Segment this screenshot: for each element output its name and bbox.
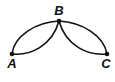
node-c-label: C bbox=[101, 56, 111, 71]
node-b-label: B bbox=[54, 3, 63, 18]
diagram-canvas: A B C bbox=[0, 0, 115, 82]
node-b-dot bbox=[57, 19, 62, 24]
graph-diagram: A B C bbox=[0, 0, 115, 82]
node-a-label: A bbox=[6, 56, 16, 71]
